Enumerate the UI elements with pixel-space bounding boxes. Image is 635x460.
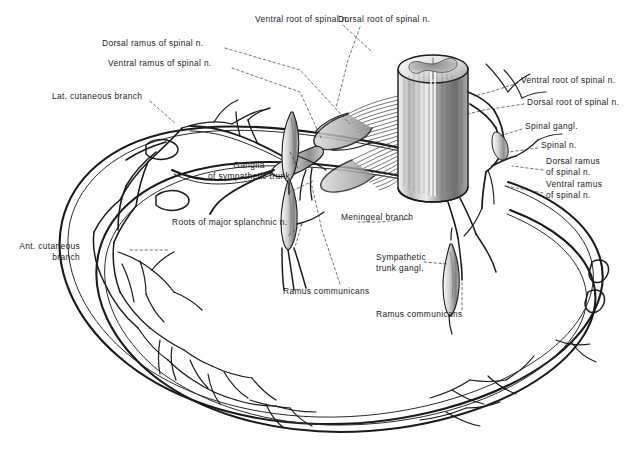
bottom-arbor bbox=[190, 360, 276, 406]
label-dorsal-root-of-spinal-n-right: Dorsal root of spinal n. bbox=[527, 97, 619, 108]
label-ventral-ramus-of-spinal-n-right: Ventral ramus of spinal n. bbox=[546, 179, 602, 200]
cutaneous-branches bbox=[94, 128, 182, 242]
label-ganglia-of-sympathetic-trunk: Ganglia of sympathetic trunk bbox=[169, 160, 329, 181]
dorsal-ramus bbox=[190, 126, 286, 158]
label-meningeal-branch: Meningeal branch bbox=[341, 212, 413, 223]
label-ventral-ramus-of-spinal-n-left: Ventral ramus of spinal n. bbox=[108, 58, 212, 69]
leader-spinal-n bbox=[508, 148, 538, 152]
ant-cutaneous-arbor bbox=[118, 252, 202, 322]
label-ventral-root-of-spinal-n-top: Ventral root of spinal n. bbox=[255, 14, 349, 25]
leader-ramus-communicans-1 bbox=[310, 178, 340, 284]
leader-dorsal-ramus-right bbox=[512, 166, 543, 170]
anatomy-illustration bbox=[0, 0, 635, 460]
leader-ventral-root-right bbox=[474, 83, 518, 96]
label-ramus-communicans-1: Ramus communicans bbox=[283, 286, 369, 297]
leader-dorsal-ramus-left bbox=[225, 48, 350, 124]
label-roots-of-major-splanchnic-n: Roots of major splanchnic n. bbox=[172, 217, 287, 228]
label-spinal-n: Spinal n. bbox=[541, 140, 577, 151]
anatomical-figure: Ventral root of spinal n. Dorsal root of… bbox=[0, 0, 635, 460]
label-dorsal-ramus-of-spinal-n-right: Dorsal ramus of spinal n. bbox=[546, 156, 600, 177]
spinal-ganglion-right bbox=[492, 132, 508, 160]
label-spinal-gangl: Spinal gangl. bbox=[525, 121, 578, 132]
splanchnic-roots bbox=[282, 248, 306, 290]
label-sympathetic-trunk-gangl: Sympathetic trunk gangl. bbox=[376, 252, 426, 273]
label-ventral-root-of-spinal-n-right: Ventral root of spinal n. bbox=[521, 75, 615, 86]
spinal-cord bbox=[398, 55, 468, 202]
right-spinal-nerve bbox=[468, 92, 516, 208]
nerve-loop-lower bbox=[156, 191, 189, 211]
label-dorsal-root-of-spinal-n-top: Dorsal root of spinal n. bbox=[338, 14, 430, 25]
leader-ventral-root-top-2 bbox=[336, 27, 360, 108]
label-ant-cutaneous-branch: Ant. cutaneous branch bbox=[0, 241, 80, 262]
leader-sympathetic-trunk-gangl bbox=[424, 262, 448, 264]
label-ramus-communicans-2: Ramus communicans bbox=[376, 309, 462, 320]
label-lat-cutaneous-branch: Lat. cutaneous branch bbox=[52, 91, 142, 102]
dorsal-root-trunk bbox=[314, 114, 372, 150]
leader-lat-cutaneous bbox=[150, 101, 176, 124]
label-dorsal-ramus-of-spinal-n-left: Dorsal ramus of spinal n. bbox=[102, 38, 203, 49]
leader-ventral-root-top bbox=[343, 25, 372, 52]
